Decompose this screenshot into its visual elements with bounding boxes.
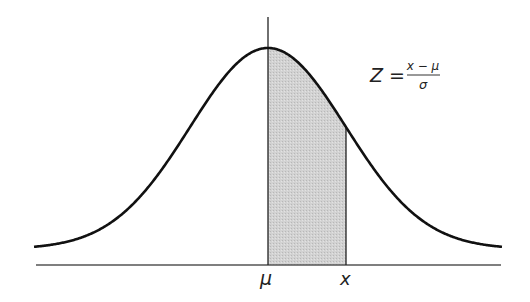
- mean-label: μ: [259, 267, 272, 289]
- normal-curve-diagram: μ x Z = x − μ σ: [0, 0, 530, 302]
- formula-lhs: Z =: [369, 64, 405, 86]
- shaded-area: [268, 48, 346, 265]
- formula-denominator: σ: [419, 77, 428, 92]
- formula-numerator: x − μ: [406, 59, 440, 73]
- x-label: x: [339, 268, 351, 289]
- z-formula: Z = x − μ σ: [369, 59, 440, 92]
